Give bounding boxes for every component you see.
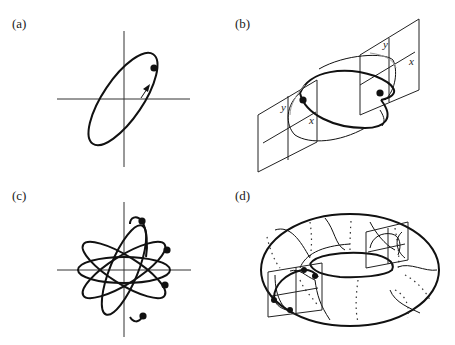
section-plane-left: y x (258, 80, 317, 172)
section-point-2 (312, 273, 318, 279)
direction-arrow-icon (143, 84, 150, 92)
orbit-point (150, 64, 157, 71)
orbit-hidden-6 (405, 275, 430, 300)
orbit-back-upper (319, 55, 396, 100)
orbit-hidden-4 (356, 280, 358, 322)
section-point-4 (287, 307, 293, 313)
plane-y-label: y (382, 38, 388, 50)
plane-orbit-crossing (370, 234, 400, 255)
section-point-right (376, 89, 383, 96)
orbit-segment-5 (398, 266, 437, 271)
orbit-segment-6 (390, 290, 420, 313)
panel-a: (a) (12, 16, 190, 167)
orbit-hidden-2 (350, 221, 351, 252)
section-point-3 (271, 297, 277, 303)
orbit-point-2 (163, 246, 170, 253)
panel-label-c: (c) (12, 188, 26, 203)
panel-c: (c) (12, 188, 191, 337)
plane-x-label: x (408, 55, 414, 67)
orbit-point-4 (139, 312, 146, 319)
panel-label-a: (a) (12, 16, 26, 31)
orbit-front (300, 71, 394, 128)
orbit-hidden-1 (310, 222, 312, 258)
plane-y-label: y (280, 101, 286, 113)
panel-b: (b) y x y x (235, 16, 419, 172)
section-plane-left (268, 263, 322, 317)
orbit-point-1 (138, 217, 145, 224)
panel-d: (d) (235, 188, 439, 326)
figure-canvas: (a) (b) y x y x (0, 0, 455, 345)
plane-x-label: x (308, 114, 314, 126)
section-point-left (299, 96, 306, 103)
orbit-segment-1 (275, 229, 310, 258)
plane-x-axis (272, 288, 318, 296)
orbit-point-3 (161, 281, 168, 288)
section-point-1 (301, 267, 307, 273)
section-plane-right: y x (360, 19, 419, 115)
panel-label-d: (d) (235, 188, 250, 203)
panel-label-b: (b) (235, 16, 250, 31)
